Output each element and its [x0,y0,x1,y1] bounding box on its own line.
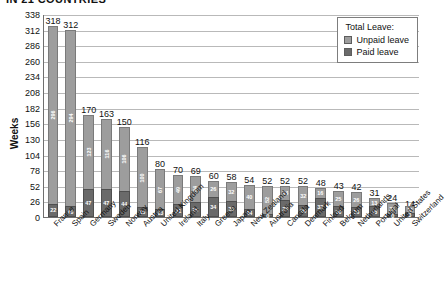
x-axis-label-slot: Spain [61,220,79,284]
x-axis-label-slot: New Zealand [240,220,258,284]
bar-slot: 806713 [151,15,169,217]
bar-total-label: 52 [262,176,272,186]
y-axis-tick-label: 286 [25,41,40,51]
bar-slot: 16311647 [98,15,116,217]
bar-slot: 602634 [205,15,223,217]
stacked-bar[interactable]: 31829622 [48,26,59,217]
bar-total-label: 58 [227,172,237,182]
y-axis-tick-label: 156 [25,119,40,129]
bar-segment-paid-label: 34 [211,204,217,210]
y-axis-tick-label: 26 [30,197,40,207]
bar-segment-unpaid[interactable]: 123 [83,115,94,189]
bar-total-label: 31 [369,188,379,198]
x-axis-label-slot: Portugal [365,220,383,284]
legend-item-paid: Paid leave [344,47,409,57]
bar-slot: 523220 [294,15,312,217]
x-axis-label-slot: Ireland [168,220,186,284]
y-axis-tick-label: 260 [25,57,40,67]
legend-swatch-unpaid-icon [344,36,352,44]
x-axis-label-slot: Belgium [330,220,348,284]
bar-segment-paid-label: 22 [50,208,56,214]
y-axis-tick-label: 52 [30,182,40,192]
bar-segment-unpaid-label: 106 [122,155,128,164]
y-axis-tick-label: 338 [25,10,40,20]
bar-segment-unpaid-label: 294 [68,114,74,123]
x-axis-label-slot: United Kingdom [150,220,168,284]
legend-item-unpaid: Unpaid leave [344,35,409,45]
bar-segment-unpaid-label: 26 [211,187,217,193]
chart-title: IN 21 COUNTRIES [6,0,106,5]
bar-total-label: 52 [280,176,290,186]
x-axis-label-slot: Netherlands [347,220,365,284]
bar-slot: 583226 [223,15,241,217]
bar-segment-unpaid-label: 40 [246,194,252,200]
bar-total-label: 48 [316,178,326,188]
bar-total-label: 163 [99,109,114,119]
stacked-bar[interactable]: 602634 [208,181,219,217]
bar-segment-unpaid[interactable]: 32 [226,182,237,201]
bar-segment-unpaid[interactable]: 294 [65,30,76,207]
bar-segment-unpaid-label: 32 [228,190,234,196]
bar-segment-paid[interactable]: 34 [208,197,219,217]
y-axis-tick-label: 78 [30,166,40,176]
bar-segment-unpaid[interactable]: 26 [208,181,219,197]
bar-total-label: 52 [298,176,308,186]
bar-segment-unpaid-label: 49 [175,187,181,193]
legend-label-unpaid: Unpaid leave [356,35,409,45]
x-axis-label-slot: Greece [204,220,222,284]
bar-segment-unpaid[interactable]: 67 [155,169,166,209]
bar-total-label: 69 [191,166,201,176]
bar-total-label: 43 [334,181,344,191]
stacked-bar[interactable]: 17012347 [83,115,94,217]
bar-slot: 52520 [258,15,276,217]
x-axis-label-slot: France [43,220,61,284]
bar-segment-unpaid-label: 67 [157,187,163,193]
stacked-bar[interactable]: 31229418 [65,30,76,217]
bar-segment-paid[interactable]: 22 [48,204,59,217]
y-axis-title: Weeks [9,104,20,164]
y-axis-tick-label: 312 [25,26,40,36]
bar-slot: 481632 [312,15,330,217]
bar-segment-unpaid-label: 32 [300,193,306,199]
bar-segment-unpaid[interactable]: 106 [119,127,130,191]
x-axis-label-slot: Germany [79,220,97,284]
y-axis-tick-label: 182 [25,104,40,114]
y-axis-tick-label: 234 [25,72,40,82]
x-axis-label-slot: Japan [222,220,240,284]
legend: Total Leave: Unpaid leave Paid leave [337,17,418,63]
bar-slot: 544014 [240,15,258,217]
bar-segment-unpaid[interactable]: 40 [244,185,255,209]
bar-total-label: 318 [45,16,60,26]
x-axis-label-slot: Norway [115,220,133,284]
bar-total-label: 170 [81,105,96,115]
x-axis-label-slot: Italy [186,220,204,284]
y-axis-tick-label: 104 [25,151,40,161]
bar-slot: 522428 [276,15,294,217]
bar-total-label: 150 [117,117,132,127]
bar-slot: 11610016 [133,15,151,217]
bar-segment-unpaid-label: 25 [336,196,342,202]
bar-segment-unpaid-label: 296 [50,111,56,120]
bar-segment-unpaid[interactable]: 100 [137,147,148,207]
bar-total-label: 54 [244,175,254,185]
bar-segment-unpaid-label: 116 [104,150,110,159]
bar-total-label: 70 [173,165,183,175]
bar-segment-unpaid[interactable]: 296 [48,26,59,204]
bar-segment-paid-label: 47 [86,200,92,206]
bar-slot: 17012347 [80,15,98,217]
bar-segment-unpaid-label: 123 [86,148,92,157]
bar-slot: 31229418 [62,15,80,217]
x-axis-label-slot: Finland [312,220,330,284]
x-axis-label-slot: Australia [258,220,276,284]
x-axis-label-slot: Sweden [97,220,115,284]
bar-total-label: 80 [155,159,165,169]
legend-label-paid: Paid leave [356,47,398,57]
x-axis-label-slot: Canada [276,220,294,284]
x-axis-label-slot: Austria [133,220,151,284]
bar-segment-unpaid[interactable]: 116 [101,119,112,189]
bar-segment-unpaid-label: 16 [318,191,324,197]
y-axis-tick-label: 208 [25,88,40,98]
y-axis-tick-label: 130 [25,135,40,145]
bar-segment-unpaid[interactable]: 16 [315,188,326,198]
